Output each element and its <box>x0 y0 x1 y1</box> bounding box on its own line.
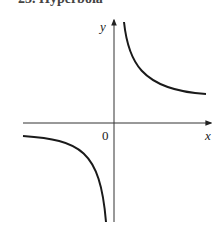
y-axis-label: y <box>98 19 106 34</box>
x-axis-label: x <box>204 128 211 143</box>
hyperbola-plot: y x 0 <box>0 0 216 230</box>
origin-label: 0 <box>102 128 109 143</box>
hyperbola-branch-negative <box>23 136 106 222</box>
hyperbola-branch-positive <box>124 22 206 94</box>
